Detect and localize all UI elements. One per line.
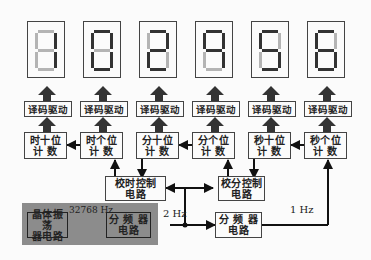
oscillator-label-line1: 晶体振荡: [28, 209, 67, 231]
decoder-label: 译码驱动: [84, 104, 124, 115]
segment-g: [262, 49, 278, 52]
divider2-label-line2: 电路: [228, 225, 249, 236]
segment-d: [318, 68, 334, 71]
segment-a: [206, 30, 222, 33]
divider1-label-line2: 电路: [118, 225, 139, 236]
divider2-label-line1: 分 频 器: [219, 214, 258, 225]
divider1-label-line1: 分 频 器: [109, 214, 148, 225]
frequency-divider-2: 分 频 器电路: [215, 212, 262, 238]
counter-label-line1: 分十位: [142, 135, 174, 146]
decoder-label: 译码驱动: [196, 104, 236, 115]
segment-b: [166, 33, 169, 49]
freq-label-2hz: 2 Hz: [163, 208, 187, 219]
segment-g: [318, 49, 334, 52]
counter-label-line2: 计 数: [33, 146, 58, 157]
decoder-label: 译码驱动: [308, 104, 348, 115]
minute-adjust-control-circuit: 校分控制电路: [218, 176, 265, 201]
segment-a: [94, 30, 110, 33]
counter-second-tens: 秒十位计 数: [248, 132, 291, 159]
minute-adjust-label-line2: 电路: [231, 189, 252, 200]
segment-e: [259, 52, 262, 68]
counter-label-line2: 计 数: [313, 146, 338, 157]
segment-d: [262, 68, 278, 71]
segment-b: [54, 33, 57, 49]
counter-minute-tens: 分十位计 数: [136, 132, 179, 159]
freq-label-32768hz: 32768 Hz: [69, 205, 113, 215]
minute-adjust-label-line1: 校分控制: [221, 178, 263, 189]
segment-g: [38, 49, 54, 52]
counter-second-ones: 秒个位计 数: [304, 132, 347, 159]
frequency-divider-1: 分 频 器电路: [106, 212, 151, 238]
oscillator-label-line2: 器电路: [32, 231, 64, 242]
hour-ones-display: [83, 21, 121, 78]
decoder-driver-minute-tens: 译码驱动: [136, 101, 184, 117]
segment-f: [35, 33, 38, 49]
segment-g: [94, 49, 110, 52]
decoder-driver-hour-ones: 译码驱动: [80, 101, 128, 117]
segment-c: [166, 52, 169, 68]
decoder-label: 译码驱动: [252, 104, 292, 115]
segment-e: [315, 52, 318, 68]
segment-a: [38, 30, 54, 33]
hour-adjust-label-line2: 电路: [125, 189, 146, 200]
segment-d: [206, 68, 222, 71]
second-tens-display: [251, 21, 289, 78]
segment-d: [94, 68, 110, 71]
segment-b: [222, 33, 225, 49]
segment-c: [334, 52, 337, 68]
counter-minute-ones: 分个位计 数: [192, 132, 235, 159]
segment-f: [91, 33, 94, 49]
counter-label-line1: 秒个位: [310, 135, 342, 146]
segment-d: [150, 68, 166, 71]
segment-f: [203, 33, 206, 49]
counter-label-line2: 计 数: [145, 146, 170, 157]
segment-g: [150, 49, 166, 52]
segment-g: [206, 49, 222, 52]
counter-label-line2: 计 数: [201, 146, 226, 157]
freq-label-1hz: 1 Hz: [290, 204, 314, 215]
counter-label-line2: 计 数: [89, 146, 114, 157]
decoder-driver-hour-tens: 译码驱动: [24, 101, 72, 117]
segment-f: [147, 33, 150, 49]
segment-e: [91, 52, 94, 68]
counter-hour-tens: 时十位计 数: [24, 132, 67, 159]
segment-c: [110, 52, 113, 68]
crystal-oscillator-circuit: 晶体振荡器电路: [27, 212, 68, 238]
decoder-driver-minute-ones: 译码驱动: [192, 101, 240, 117]
counter-hour-ones: 时个位计 数: [80, 132, 123, 159]
decoder-label: 译码驱动: [140, 104, 180, 115]
segment-a: [262, 30, 278, 33]
counter-label-line1: 分个位: [198, 135, 230, 146]
decoder-driver-second-ones: 译码驱动: [304, 101, 352, 117]
segment-f: [259, 33, 262, 49]
segment-a: [318, 30, 334, 33]
segment-b: [110, 33, 113, 49]
segment-b: [278, 33, 281, 49]
segment-a: [150, 30, 166, 33]
counter-label-line1: 秒十位: [254, 135, 286, 146]
segment-c: [222, 52, 225, 68]
segment-d: [38, 68, 54, 71]
hour-adjust-label-line1: 校时控制: [115, 178, 157, 189]
segment-e: [147, 52, 150, 68]
segment-c: [278, 52, 281, 68]
decoder-label: 译码驱动: [28, 104, 68, 115]
counter-label-line1: 时十位: [30, 135, 62, 146]
segment-e: [203, 52, 206, 68]
minute-ones-display: [195, 21, 233, 78]
segment-c: [54, 52, 57, 68]
hour-tens-display: [27, 21, 65, 78]
counter-label-line1: 时个位: [86, 135, 118, 146]
hour-adjust-control-circuit: 校时控制电路: [105, 176, 166, 201]
second-ones-display: [307, 21, 345, 78]
segment-f: [315, 33, 318, 49]
segment-e: [35, 52, 38, 68]
counter-label-line2: 计 数: [257, 146, 282, 157]
minute-tens-display: [139, 21, 177, 78]
segment-b: [334, 33, 337, 49]
decoder-driver-second-tens: 译码驱动: [248, 101, 296, 117]
